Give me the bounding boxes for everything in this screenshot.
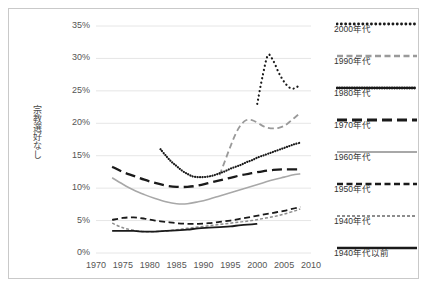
legend-label: 1940年代 bbox=[334, 214, 371, 226]
legend-entry[interactable]: 1970年代 bbox=[334, 110, 420, 140]
legend-entry[interactable]: 1950年代 bbox=[334, 174, 420, 204]
x-axis-tick-label: 2000 bbox=[242, 260, 272, 270]
y-axis-tick-label: 20% bbox=[56, 117, 90, 127]
legend-label: 2000年代 bbox=[334, 22, 371, 34]
y-axis-tick-label: 15% bbox=[56, 150, 90, 160]
legend-entry[interactable]: 1980年代 bbox=[334, 78, 420, 108]
legend-label: 1950年代 bbox=[334, 182, 371, 194]
y-axis-tick-label: 5% bbox=[56, 215, 90, 225]
legend-swatch-icon bbox=[336, 110, 418, 118]
series-line bbox=[257, 55, 300, 104]
legend-label: 1970年代 bbox=[334, 118, 371, 130]
series-line bbox=[112, 224, 257, 232]
y-axis-tick-label: 25% bbox=[56, 85, 90, 95]
x-axis-tick-label: 1975 bbox=[108, 260, 138, 270]
legend-swatch-icon bbox=[336, 46, 418, 54]
legend-swatch-icon bbox=[336, 238, 418, 246]
y-axis-tick-label: 10% bbox=[56, 182, 90, 192]
series-line bbox=[220, 113, 301, 175]
x-axis-tick-label: 1985 bbox=[162, 260, 192, 270]
legend-entry[interactable]: 1960年代 bbox=[334, 142, 420, 172]
legend-label: 1980年代 bbox=[334, 86, 371, 98]
legend-label: 1960年代 bbox=[334, 150, 371, 162]
y-axis-tick-label: 0% bbox=[56, 247, 90, 257]
x-axis-tick-label: 1990 bbox=[189, 260, 219, 270]
legend-swatch-icon bbox=[336, 174, 418, 182]
legend-swatch-icon bbox=[336, 14, 418, 22]
legend-label: 1990年代 bbox=[334, 54, 371, 66]
legend-swatch-icon bbox=[336, 78, 418, 86]
series-line bbox=[112, 207, 300, 224]
legend-entry[interactable]: 1990年代 bbox=[334, 46, 420, 76]
legend-entry[interactable]: 1940年代以前 bbox=[334, 238, 420, 268]
legend-entry[interactable]: 1940年代 bbox=[334, 206, 420, 236]
x-axis-tick-label: 1980 bbox=[135, 260, 165, 270]
chart-legend: 2000年代1990年代1980年代1970年代1960年代1950年代1940… bbox=[334, 14, 420, 272]
legend-swatch-icon bbox=[336, 142, 418, 150]
x-axis-tick-label: 2010 bbox=[296, 260, 326, 270]
legend-entry[interactable]: 2000年代 bbox=[334, 14, 420, 44]
legend-label: 1940年代以前 bbox=[334, 246, 389, 258]
x-axis-tick-label: 1970 bbox=[81, 260, 111, 270]
x-axis-tick-label: 1995 bbox=[215, 260, 245, 270]
y-axis-tick-label: 35% bbox=[56, 20, 90, 30]
chart-figure: 宗教選好なし 2000年代1990年代1980年代1970年代1960年代195… bbox=[0, 0, 427, 295]
legend-swatch-icon bbox=[336, 206, 418, 214]
y-axis-tick-label: 30% bbox=[56, 52, 90, 62]
x-axis-tick-label: 2005 bbox=[269, 260, 299, 270]
